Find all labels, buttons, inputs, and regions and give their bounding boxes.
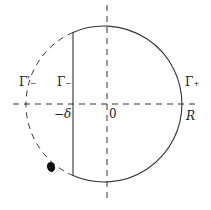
label-gamma-minus: Γ₋	[57, 75, 72, 89]
label-radius: R	[185, 109, 195, 123]
contour-diagram: Γ′₋ Γ₋ Γ₊ −δ 0 R	[0, 0, 211, 210]
label-origin: 0	[109, 107, 117, 121]
label-minus-delta: −δ	[54, 107, 71, 121]
label-gamma-minus-prime: Γ′₋	[19, 75, 36, 89]
label-gamma-plus: Γ₊	[185, 75, 200, 89]
ink-blot	[46, 161, 57, 173]
